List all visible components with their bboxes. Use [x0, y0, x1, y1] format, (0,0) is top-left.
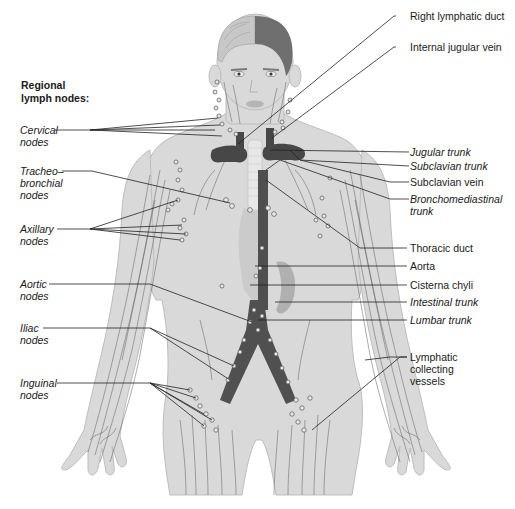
label-cisterna-chyli: Cisterna chyli: [410, 279, 473, 291]
label-thoracic-duct: Thoracic duct: [410, 242, 473, 254]
label-cervical-nodes: Cervical nodes: [20, 124, 58, 148]
label-iliac-nodes: Iliac nodes: [20, 322, 49, 346]
label-internal-jugular-vein: Internal jugular vein: [410, 41, 502, 53]
label-inguinal-nodes: Inguinal nodes: [20, 377, 57, 401]
label-subclavian-trunk: Subclavian trunk: [410, 160, 488, 172]
label-line: nodes: [20, 235, 54, 247]
label-line: Tracheo–: [20, 165, 64, 177]
label-line: Axillary: [20, 223, 54, 235]
label-line: nodes: [20, 334, 49, 346]
label-lumbar-trunk: Lumbar trunk: [410, 314, 472, 326]
label-tracheobronchial-nodes: Tracheo– bronchial nodes: [20, 165, 64, 201]
heading-line2: lymph nodes:: [21, 92, 89, 105]
label-line: Inguinal: [20, 377, 57, 389]
label-line: Cervical: [20, 124, 58, 136]
label-line: Lymphatic: [410, 351, 457, 363]
label-lymphatic-collecting-vessels: Lymphatic collecting vessels: [410, 351, 457, 387]
label-right-lymphatic-duct: Right lymphatic duct: [410, 10, 505, 22]
regional-lymph-nodes-heading: Regional lymph nodes:: [21, 79, 89, 105]
label-line: nodes: [20, 389, 57, 401]
body-illustration: [0, 0, 515, 509]
label-line: bronchial: [20, 177, 64, 189]
label-line: trunk: [410, 205, 502, 217]
label-line: nodes: [20, 136, 58, 148]
label-line: Aortic: [20, 278, 49, 290]
label-line: vessels: [410, 375, 457, 387]
label-line: Iliac: [20, 322, 49, 334]
lymphatic-system-diagram: Regional lymph nodes: Cervical nodes Tra…: [0, 0, 515, 509]
label-intestinal-trunk: Intestinal trunk: [410, 296, 478, 308]
heading-line1: Regional: [21, 79, 89, 92]
label-line: collecting: [410, 363, 457, 375]
label-bronchomediastinal-trunk: Bronchomediastinal trunk: [410, 193, 502, 217]
label-line: nodes: [20, 189, 64, 201]
label-line: Bronchomediastinal: [410, 193, 502, 205]
label-subclavian-vein: Subclavian vein: [410, 176, 484, 188]
label-line: nodes: [20, 290, 49, 302]
label-jugular-trunk: Jugular trunk: [410, 146, 471, 158]
label-aorta: Aorta: [410, 260, 435, 272]
label-axillary-nodes: Axillary nodes: [20, 223, 54, 247]
label-aortic-nodes: Aortic nodes: [20, 278, 49, 302]
